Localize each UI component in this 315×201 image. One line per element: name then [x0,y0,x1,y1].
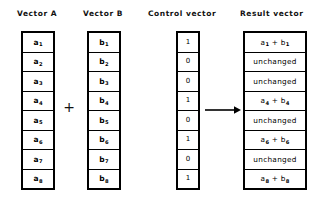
vector-b-term: b2 [99,58,108,66]
vector-b-term: b5 [99,117,108,125]
result-vector-cell: unchanged [245,72,305,92]
vector-b-term: b4 [99,97,108,105]
control-bit: 1 [186,97,190,104]
column-header-vector-b: Vector B [83,9,123,18]
control-bit: 0 [186,58,190,65]
vector-a-term: a8 [33,175,42,183]
vector-a-cell: a8 [23,170,53,189]
vector-b-cell: b3 [89,72,119,92]
vector-a-cell: a6 [23,131,53,151]
vector-a-cell: a4 [23,92,53,112]
result-vector-cell: unchanged [245,150,305,170]
control-bit: 1 [186,39,190,46]
result-vector-cell: a4 + b4 [245,92,305,112]
vector-a-cell: a7 [23,150,53,170]
result-expression: unchanged [253,156,296,163]
vector-b-term: b8 [99,175,108,183]
vector-a-term: a4 [33,97,42,105]
result-vector-cell: a6 + b6 [245,131,305,151]
vector-b-cell: b2 [89,53,119,73]
result-vector-cell: unchanged [245,53,305,73]
vector-b-term: b6 [99,136,108,144]
control-vector-cell: 1 [178,131,198,151]
plus-operator-icon: + [62,100,76,114]
vector-b-term: b1 [99,39,108,47]
control-vector-cell: 1 [178,33,198,53]
vector-a-term: a2 [33,58,42,66]
vector-a-term: a5 [33,117,42,125]
result-expression: unchanged [253,117,296,124]
vector-a-term: a7 [33,156,42,164]
column-header-result-vector: Result vector [240,9,303,18]
control-bit: 0 [186,117,190,124]
result-vector-cell: unchanged [245,111,305,131]
result-vector-cell: a1 + b1 [245,33,305,53]
vector-b-cell: b6 [89,131,119,151]
vector-b-term: b3 [99,78,108,86]
column-header-vector-a: Vector A [17,9,57,18]
result-expression: unchanged [253,78,296,85]
vector-b-cell: b1 [89,33,119,53]
control-vector-cell: 0 [178,150,198,170]
result-expression: a6 + b6 [261,136,290,143]
result-expression: a1 + b1 [261,39,290,46]
control-bit: 1 [186,175,190,182]
result-expression: unchanged [253,58,296,65]
result-vector-column: a1 + b1 unchanged unchanged a4 + b4 unch… [243,31,307,190]
control-vector-column: 1 0 0 1 0 1 0 1 [176,31,200,190]
arrow-right-icon [205,104,241,116]
result-vector-cell: a8 + b8 [245,170,305,189]
control-bit: 1 [186,136,190,143]
control-vector-cell: 0 [178,72,198,92]
control-bit: 0 [186,78,190,85]
vector-a-term: a1 [33,39,42,47]
vector-control-diagram: Vector A Vector B Control vector Result … [0,0,315,201]
vector-a-cell: a2 [23,53,53,73]
vector-b-cell: b8 [89,170,119,189]
vector-a-cell: a5 [23,111,53,131]
control-bit: 0 [186,156,190,163]
control-vector-cell: 0 [178,111,198,131]
vector-b-cell: b4 [89,92,119,112]
vector-a-cell: a1 [23,33,53,53]
vector-b-cell: b5 [89,111,119,131]
vector-a-cell: a3 [23,72,53,92]
column-header-control-vector: Control vector [148,9,216,18]
vector-b-term: b7 [99,156,108,164]
vector-a-term: a6 [33,136,42,144]
vector-b-cell: b7 [89,150,119,170]
vector-a-column: a1 a2 a3 a4 a5 a6 a7 a8 [21,31,55,190]
control-vector-cell: 1 [178,170,198,189]
vector-b-column: b1 b2 b3 b4 b5 b6 b7 b8 [87,31,121,190]
vector-a-term: a3 [33,78,42,86]
control-vector-cell: 1 [178,92,198,112]
result-expression: a4 + b4 [261,97,290,104]
control-vector-cell: 0 [178,53,198,73]
result-expression: a8 + b8 [261,175,290,182]
